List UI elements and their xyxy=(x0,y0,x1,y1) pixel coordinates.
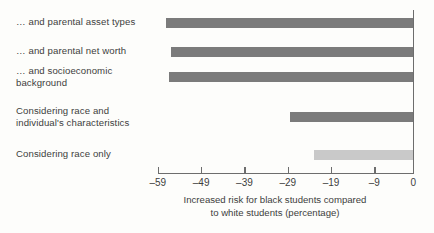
bar-race-and-characteristics xyxy=(290,112,413,122)
x-axis-line xyxy=(158,173,415,174)
x-axis-title: Increased risk for black students compar… xyxy=(130,194,420,219)
bar-socioeconomic-background xyxy=(169,72,414,82)
x-tick-2 xyxy=(244,167,245,174)
horizontal-bar-chart: … and parental asset types … and parenta… xyxy=(0,0,434,233)
bar-parental-net-worth xyxy=(171,47,413,57)
x-tick-label-3: –29 xyxy=(279,177,296,188)
x-tick-5 xyxy=(374,167,375,174)
x-tick-6 xyxy=(413,167,414,174)
x-tick-1 xyxy=(201,167,202,174)
x-tick-label-5: –9 xyxy=(369,177,380,188)
x-tick-3 xyxy=(288,167,289,174)
x-tick-0 xyxy=(158,167,159,174)
category-label-parental-net-worth: … and parental net worth xyxy=(16,45,156,57)
x-tick-4 xyxy=(331,167,332,174)
bar-parental-asset-types xyxy=(166,18,413,28)
x-tick-label-6: 0 xyxy=(411,177,417,188)
bar-race-only xyxy=(314,150,414,160)
category-label-parental-asset-types: … and parental asset types xyxy=(16,16,156,28)
x-tick-label-2: –39 xyxy=(236,177,253,188)
zero-axis-line xyxy=(413,10,414,174)
category-label-race-only: Considering race only xyxy=(16,148,156,160)
x-tick-label-1: –49 xyxy=(193,177,210,188)
x-tick-label-0: –59 xyxy=(149,177,166,188)
x-tick-label-4: –19 xyxy=(323,177,340,188)
category-label-race-and-characteristics: Considering race and individual's charac… xyxy=(16,105,156,129)
category-label-socioeconomic-background: … and socioeconomic background xyxy=(16,65,156,89)
